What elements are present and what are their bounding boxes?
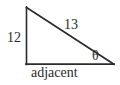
hypotenuse-label: 13: [64, 18, 78, 32]
opposite-side-label: 12: [7, 31, 21, 45]
adjacent-side-label: adjacent: [31, 66, 78, 80]
theta-angle-label: θ: [92, 49, 99, 63]
hypotenuse-line: [27, 8, 115, 65]
triangle-figure: 12 13 θ adjacent: [0, 0, 120, 85]
